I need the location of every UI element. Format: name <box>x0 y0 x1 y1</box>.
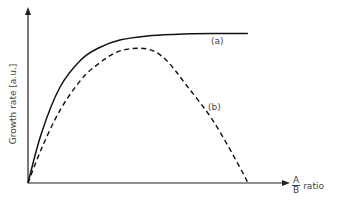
x-axis-arrow-icon <box>282 180 290 186</box>
x-axis-label-suffix: ratio <box>303 181 324 191</box>
fraction-denominator: B <box>293 186 299 195</box>
ratio-fraction: A B <box>292 176 300 195</box>
annotation-b: (b) <box>208 102 221 112</box>
y-axis-label: Growth rate [a.u.] <box>8 64 18 145</box>
annotation-a: (a) <box>211 36 224 46</box>
chart-canvas <box>0 0 340 206</box>
x-axis-label: A B ratio <box>292 176 324 195</box>
series-b-line <box>28 48 248 183</box>
y-axis-arrow-icon <box>25 7 31 15</box>
